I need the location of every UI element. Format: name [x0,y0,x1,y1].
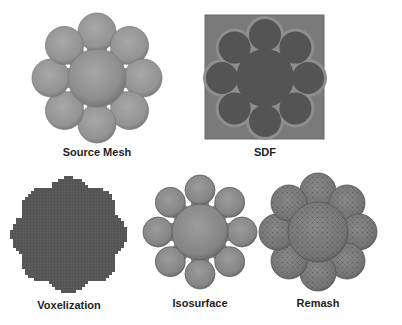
isosurface-petal [143,217,173,247]
voxel [61,275,64,278]
voxel [61,200,64,203]
voxel [58,233,61,236]
voxel [19,218,22,221]
voxel [70,284,73,287]
voxel [46,260,49,263]
voxel [22,230,25,233]
voxelization-label: Voxelization [9,299,129,311]
voxel [43,257,46,260]
voxel [61,239,64,242]
voxel [64,209,67,212]
voxel [55,257,58,260]
voxel [46,239,49,242]
voxel [73,287,76,290]
voxel [112,257,115,260]
voxel [61,224,64,227]
voxel [103,260,106,263]
voxel [43,200,46,203]
voxel [46,200,49,203]
voxel [70,242,73,245]
voxel [55,200,58,203]
voxel [67,266,70,269]
voxel [46,227,49,230]
voxel [82,230,85,233]
voxel [73,290,76,293]
voxel [46,191,49,194]
voxel [70,209,73,212]
voxel [112,266,115,269]
voxel [106,221,109,224]
voxel [85,212,88,215]
voxel [94,242,97,245]
voxel [37,242,40,245]
voxel [61,182,64,185]
voxel [103,203,106,206]
voxel [112,269,115,272]
voxel [73,212,76,215]
voxel [100,254,103,257]
voxel [22,227,25,230]
voxel [97,254,100,257]
voxel [103,200,106,203]
voxel [64,230,67,233]
voxel [118,221,121,224]
voxel [109,254,112,257]
voxel [49,224,52,227]
voxel [97,242,100,245]
sdf-core [236,49,294,107]
voxel [67,275,70,278]
voxel [82,242,85,245]
voxel [28,209,31,212]
voxel [103,266,106,269]
voxel [34,197,37,200]
voxel [25,215,28,218]
voxel [94,200,97,203]
voxel [40,248,43,251]
voxel [49,266,52,269]
voxel [109,197,112,200]
voxel [46,218,49,221]
voxel [31,260,34,263]
voxel [52,197,55,200]
voxel [34,191,37,194]
voxel [106,248,109,251]
voxel [100,236,103,239]
voxel [70,248,73,251]
voxel [94,230,97,233]
voxel [73,236,76,239]
voxel [124,233,127,236]
voxel [67,221,70,224]
voxel [58,281,61,284]
voxel [22,248,25,251]
voxel [118,245,121,248]
voxel [103,209,106,212]
voxel [103,275,106,278]
voxel [34,188,37,191]
voxel [91,218,94,221]
voxel [82,254,85,257]
voxel [115,227,118,230]
voxel [37,263,40,266]
voxel [85,197,88,200]
voxel [22,215,25,218]
voxel [82,194,85,197]
voxel [37,275,40,278]
voxel [40,197,43,200]
voxel [22,200,25,203]
voxel [61,227,64,230]
voxel [52,260,55,263]
voxel [52,263,55,266]
voxel [61,278,64,281]
voxel [82,188,85,191]
voxel [28,263,31,266]
voxel [49,197,52,200]
voxel [85,251,88,254]
voxel [76,239,79,242]
voxel [67,188,70,191]
voxel [103,248,106,251]
voxel [106,263,109,266]
voxel [124,239,127,242]
voxel [76,287,79,290]
voxel [79,242,82,245]
voxel [22,260,25,263]
